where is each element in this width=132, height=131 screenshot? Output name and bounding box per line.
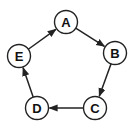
node-e: E: [8, 45, 31, 68]
node-label: A: [61, 15, 71, 30]
edge-e-to-a: [28, 29, 56, 49]
node-label: C: [90, 101, 100, 116]
directed-graph: ABCDE: [0, 0, 132, 131]
node-label: D: [32, 101, 41, 116]
node-a: A: [55, 11, 78, 34]
edge-a-to-b: [76, 28, 105, 46]
node-c: C: [84, 97, 107, 120]
edge-d-to-e: [23, 68, 33, 97]
node-d: D: [26, 97, 49, 120]
node-b: B: [104, 42, 127, 65]
node-label: E: [15, 49, 24, 64]
nodes: ABCDE: [8, 11, 127, 120]
edge-b-to-c: [99, 64, 111, 96]
node-label: B: [110, 46, 119, 61]
